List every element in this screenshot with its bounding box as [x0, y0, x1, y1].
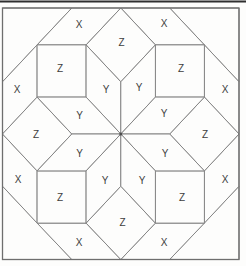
- z-diamond-e-label: Z: [202, 129, 208, 140]
- z-square-se-label: Z: [179, 192, 185, 203]
- z-diamond-n-label: Z: [118, 37, 124, 48]
- y-rhombus-s-sw-label: Y: [102, 175, 109, 186]
- z-square-nw-label: Z: [57, 63, 63, 74]
- x-rhombus-bottom-right-label: X: [161, 237, 168, 248]
- z-diamond-s-label: Z: [119, 217, 125, 228]
- x-rhombus-top-right-label: X: [161, 18, 168, 29]
- quilt-block-diagram: XXXXXXXXZZZZZZZZYYYYYYYY: [0, 0, 246, 266]
- x-rhombus-left-lower-label: X: [15, 174, 22, 185]
- y-rhombus-n-ne-label: Y: [136, 82, 143, 93]
- y-rhombus-w-sw-label: Y: [76, 148, 83, 159]
- x-rhombus-left-upper-label: X: [14, 84, 21, 95]
- x-rhombus-bottom-left-label: X: [76, 237, 83, 248]
- star-center-point: [119, 133, 122, 136]
- y-rhombus-e-se-label: Y: [162, 148, 169, 159]
- x-rhombus-right-upper-label: X: [222, 84, 229, 95]
- y-rhombus-n-nw-label: Y: [103, 84, 110, 95]
- x-rhombus-top-left-label: X: [76, 19, 83, 30]
- z-diamond-w-label: Z: [33, 129, 39, 140]
- x-rhombus-right-lower-label: X: [222, 174, 229, 185]
- scanned-diagram-page: XXXXXXXXZZZZZZZZYYYYYYYY: [0, 0, 246, 266]
- y-rhombus-s-se-label: Y: [139, 175, 146, 186]
- z-square-ne-label: Z: [178, 63, 184, 74]
- y-rhombus-w-nw-label: Y: [76, 110, 83, 121]
- z-square-sw-label: Z: [57, 192, 63, 203]
- y-rhombus-e-ne-label: Y: [161, 108, 168, 119]
